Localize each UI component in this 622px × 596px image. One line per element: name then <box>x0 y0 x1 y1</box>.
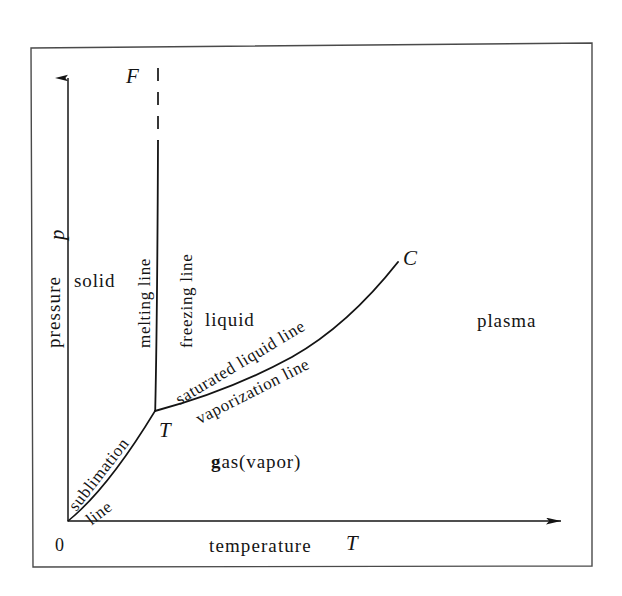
region-label-gas: gas(vapor) <box>211 452 301 471</box>
x-axis-symbol: T <box>346 533 358 554</box>
curve-label-melting-line: melting line <box>136 258 153 348</box>
fusion-line-solid-segment <box>155 141 158 411</box>
phase-diagram-figure: pressure p temperature T 0 solid liquid … <box>0 0 622 596</box>
region-label-gas-rest: as(vapor) <box>221 451 301 472</box>
y-axis-label: pressure <box>44 276 63 348</box>
region-label-liquid: liquid <box>205 310 255 329</box>
point-label-critical-point: C <box>403 248 417 269</box>
figure-border <box>31 43 592 567</box>
region-label-solid: solid <box>74 271 115 290</box>
y-axis-symbol: p <box>47 230 68 241</box>
origin-label: 0 <box>55 536 64 554</box>
point-label-triple-point: T <box>159 420 171 441</box>
region-label-plasma: plasma <box>477 311 536 330</box>
point-label-fusion-top: F <box>126 66 139 87</box>
region-label-gas-prefix: g <box>211 451 221 472</box>
x-axis-label: temperature <box>209 536 312 555</box>
curve-label-freezing-line: freezing line <box>178 253 195 348</box>
